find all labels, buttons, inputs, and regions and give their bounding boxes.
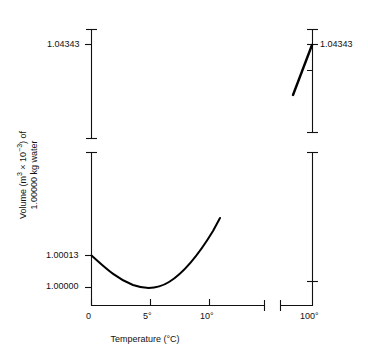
y-axis-title-line-2: 1.00000 kg water	[29, 100, 40, 250]
y-axis-title-mid: × 10	[18, 152, 28, 172]
y-axis-title-sup-volume: 3	[16, 172, 23, 176]
x-tick-label-10: 10°	[200, 311, 214, 321]
y-tick-label-1-00000: 1.00000	[46, 281, 79, 291]
left-lower-axes	[85, 152, 265, 311]
y-axis-title-prefix: Volume (m	[18, 176, 28, 219]
y-tick-label-top-right: 1.04343	[320, 39, 353, 49]
y-axis-title-suffix: ) of	[18, 131, 28, 144]
x-axis-title: Temperature (°C)	[0, 334, 290, 345]
x-tick-label-5: 5°	[143, 311, 152, 321]
right-lower-axes	[280, 152, 318, 311]
x-tick-label-100: 100°	[300, 311, 319, 321]
left-upper-y-axis	[85, 29, 97, 139]
x-tick-label-0: 0	[86, 311, 91, 321]
y-axis-title-sup-exponent: −3	[16, 144, 23, 152]
y-axis-title-line-1: Volume (m3 × 10−3) of	[14, 100, 29, 250]
y-tick-label-1-00013: 1.00013	[46, 250, 79, 260]
y-axis-title: Volume (m3 × 10−3) of 1.00000 kg water	[14, 100, 40, 250]
water-volume-curve-low-temp	[92, 218, 221, 288]
y-tick-label-top-left: 1.04343	[47, 39, 80, 49]
plot-canvas	[0, 0, 368, 359]
water-volume-vs-temperature-figure: 1.04343 1.00013 1.00000 1.04343 0 5° 10°…	[0, 0, 368, 359]
